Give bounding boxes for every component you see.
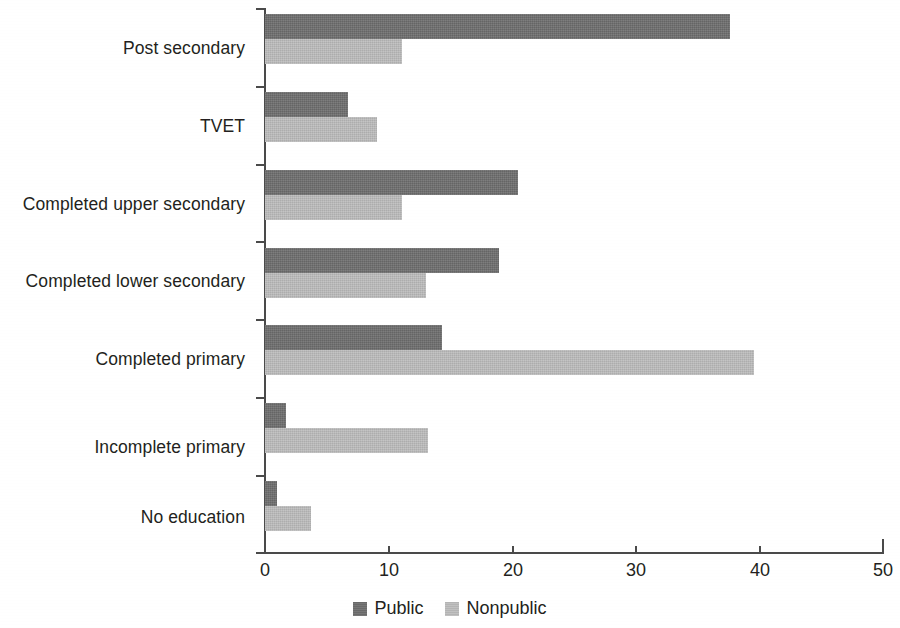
- x-axis-tick-label: 50: [853, 560, 900, 581]
- bar-public-3: [265, 248, 499, 273]
- bar-nonpublic-6: [265, 506, 311, 531]
- y-axis-category-label: Post secondary: [0, 38, 245, 59]
- bar-public-1: [265, 92, 348, 117]
- legend-swatch-icon: [353, 602, 367, 616]
- x-axis-tick-label: 20: [483, 560, 543, 581]
- bar-public-4: [265, 325, 442, 350]
- y-axis-tick: [256, 319, 265, 321]
- y-axis-category-label: Completed lower secondary: [0, 271, 245, 292]
- y-axis-tick: [256, 241, 265, 243]
- x-axis-tick: [264, 539, 266, 553]
- bar-nonpublic-5: [265, 428, 428, 453]
- y-axis-category-label: TVET: [0, 116, 245, 137]
- y-axis-category-label: Completed upper secondary: [0, 194, 245, 215]
- bar-public-5: [265, 403, 286, 428]
- legend-swatch-icon: [445, 602, 459, 616]
- bar-public-0: [265, 14, 730, 39]
- y-axis-tick: [256, 475, 265, 477]
- bar-nonpublic-1: [265, 117, 377, 142]
- legend-label: Public: [374, 598, 423, 619]
- y-axis-tick: [256, 164, 265, 166]
- x-axis-tick-label: 40: [730, 560, 790, 581]
- bar-nonpublic-4: [265, 350, 754, 375]
- bar-nonpublic-3: [265, 273, 426, 298]
- bar-nonpublic-2: [265, 195, 402, 220]
- y-axis-tick: [256, 86, 265, 88]
- x-axis-tick: [388, 546, 390, 554]
- chart-legend: Public Nonpublic: [0, 598, 900, 619]
- legend-label: Nonpublic: [466, 598, 546, 619]
- x-axis-tick-label: 10: [359, 560, 419, 581]
- y-axis-category-label: Completed primary: [0, 349, 245, 370]
- x-axis-tick: [635, 546, 637, 554]
- y-axis-category-label: Incomplete primary: [0, 437, 245, 458]
- bar-public-2: [265, 170, 518, 195]
- x-axis-tick-label: 0: [235, 560, 295, 581]
- y-axis-category-label: No education: [0, 507, 245, 528]
- x-axis-tick: [512, 546, 514, 554]
- bar-nonpublic-0: [265, 39, 402, 64]
- x-axis-tick: [759, 546, 761, 554]
- bar-public-6: [265, 481, 277, 506]
- x-axis-tick-label: 30: [606, 560, 666, 581]
- plot-area: [265, 8, 883, 553]
- x-axis-tick: [882, 539, 884, 553]
- legend-item-public: Public: [353, 598, 423, 619]
- legend-item-nonpublic: Nonpublic: [445, 598, 546, 619]
- y-axis-tick: [256, 397, 265, 399]
- y-axis-tick: [256, 8, 265, 10]
- bar-chart-figure: Post secondary TVET Completed upper seco…: [0, 0, 900, 628]
